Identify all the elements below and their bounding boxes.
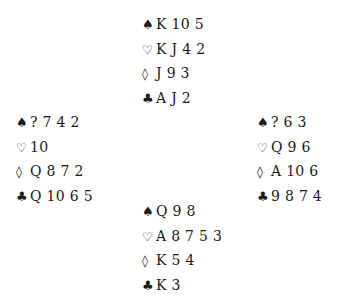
diamond-icon: ◊ xyxy=(16,160,30,185)
west-clubs: ♣Q 10 6 5 xyxy=(16,184,93,209)
south-clubs-cards: K 3 xyxy=(156,277,181,293)
east-diamonds: ◊A 10 6 xyxy=(257,159,322,184)
south-hand: ♠Q 9 8 ♡A 8 7 5 3 ◊K 5 4 ♣K 3 xyxy=(142,199,222,297)
east-clubs: ♣9 8 7 4 xyxy=(257,184,322,209)
north-hearts-cards: K J 4 2 xyxy=(156,41,205,57)
north-hearts: ♡K J 4 2 xyxy=(142,37,205,62)
west-diamonds-cards: Q 8 7 2 xyxy=(30,163,84,179)
heart-icon: ♡ xyxy=(142,225,156,250)
east-hand: ♠? 6 3 ♡Q 9 6 ◊A 10 6 ♣9 8 7 4 xyxy=(257,110,322,208)
heart-icon: ♡ xyxy=(257,136,271,161)
west-diamonds: ◊Q 8 7 2 xyxy=(16,159,93,184)
heart-icon: ♡ xyxy=(16,136,30,161)
north-hand: ♠K 10 5 ♡K J 4 2 ◊J 9 3 ♣A J 2 xyxy=(142,12,205,110)
north-clubs-cards: A J 2 xyxy=(156,90,191,106)
west-clubs-cards: Q 10 6 5 xyxy=(30,188,93,204)
south-hearts-cards: A 8 7 5 3 xyxy=(156,228,222,244)
spade-icon: ♠ xyxy=(16,111,30,136)
club-icon: ♣ xyxy=(142,87,156,112)
west-spades-cards: ? 7 4 2 xyxy=(30,114,80,130)
south-diamonds: ◊K 5 4 xyxy=(142,248,222,273)
spade-icon: ♠ xyxy=(142,13,156,38)
north-spades: ♠K 10 5 xyxy=(142,12,205,37)
east-hearts: ♡Q 9 6 xyxy=(257,135,322,160)
spade-icon: ♠ xyxy=(142,200,156,225)
diamond-icon: ◊ xyxy=(142,249,156,274)
club-icon: ♣ xyxy=(257,185,271,210)
north-spades-cards: K 10 5 xyxy=(156,16,204,32)
heart-icon: ♡ xyxy=(142,38,156,63)
south-spades: ♠Q 9 8 xyxy=(142,199,222,224)
west-hand: ♠? 7 4 2 ♡10 ◊Q 8 7 2 ♣Q 10 6 5 xyxy=(16,110,93,208)
east-spades-cards: ? 6 3 xyxy=(271,114,307,130)
east-diamonds-cards: A 10 6 xyxy=(271,163,319,179)
south-diamonds-cards: K 5 4 xyxy=(156,252,195,268)
west-spades: ♠? 7 4 2 xyxy=(16,110,93,135)
east-hearts-cards: Q 9 6 xyxy=(271,139,311,155)
club-icon: ♣ xyxy=(16,185,30,210)
south-clubs: ♣K 3 xyxy=(142,273,222,298)
diamond-icon: ◊ xyxy=(142,62,156,87)
diamond-icon: ◊ xyxy=(257,160,271,185)
north-diamonds-cards: J 9 3 xyxy=(156,65,190,81)
west-hearts: ♡10 xyxy=(16,135,93,160)
east-spades: ♠? 6 3 xyxy=(257,110,322,135)
club-icon: ♣ xyxy=(142,274,156,299)
south-spades-cards: Q 9 8 xyxy=(156,203,196,219)
spade-icon: ♠ xyxy=(257,111,271,136)
south-hearts: ♡A 8 7 5 3 xyxy=(142,224,222,249)
east-clubs-cards: 9 8 7 4 xyxy=(271,188,322,204)
north-clubs: ♣A J 2 xyxy=(142,86,205,111)
west-hearts-cards: 10 xyxy=(30,139,48,155)
north-diamonds: ◊J 9 3 xyxy=(142,61,205,86)
